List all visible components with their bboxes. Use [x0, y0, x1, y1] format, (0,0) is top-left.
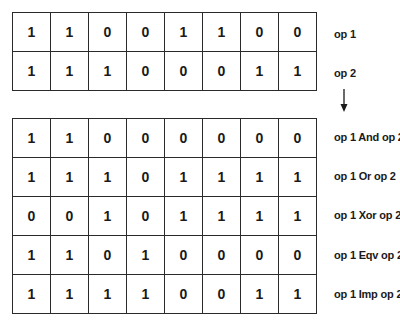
- bit-cell: 0: [203, 119, 241, 158]
- bit-cell: 1: [51, 119, 89, 158]
- bit-cell: 0: [241, 119, 279, 158]
- row-label-imp: op 1 Imp op 2: [334, 288, 400, 300]
- bit-cell: 0: [203, 52, 241, 91]
- bit-cell: 1: [165, 158, 203, 197]
- bit-cell: 1: [165, 13, 203, 52]
- bit-cell: 1: [51, 236, 89, 275]
- bit-cell: 0: [127, 13, 165, 52]
- bit-cell: 0: [279, 119, 317, 158]
- operand-row-op1: 1 1 0 0 1 1 0 0: [13, 13, 317, 52]
- bit-cell: 1: [51, 275, 89, 314]
- bit-cell: 1: [13, 13, 51, 52]
- bit-cell: 1: [241, 52, 279, 91]
- bit-cell: 1: [13, 158, 51, 197]
- operand-row-op2: 1 1 1 0 0 0 1 1: [13, 52, 317, 91]
- down-arrow-icon: [339, 89, 349, 113]
- bit-cell: 0: [241, 13, 279, 52]
- result-table: 1 1 0 0 0 0 0 0 1 1 1 0 1 1 1 1 0 0 1 0 …: [12, 118, 317, 314]
- bit-cell: 0: [127, 158, 165, 197]
- row-label-xor: op 1 Xor op 2: [334, 209, 400, 221]
- bit-cell: 1: [89, 275, 127, 314]
- bit-cell: 0: [89, 13, 127, 52]
- bit-cell: 1: [203, 158, 241, 197]
- bit-cell: 0: [127, 197, 165, 236]
- bit-cell: 1: [51, 52, 89, 91]
- bit-cell: 0: [165, 236, 203, 275]
- bit-cell: 0: [89, 119, 127, 158]
- row-label-or: op 1 Or op 2: [334, 170, 400, 182]
- bit-cell: 1: [165, 197, 203, 236]
- bit-cell: 0: [279, 13, 317, 52]
- row-label-eqv: op 1 Eqv op 2: [334, 249, 400, 261]
- bit-cell: 0: [203, 236, 241, 275]
- bit-cell: 1: [241, 158, 279, 197]
- bit-cell: 0: [127, 119, 165, 158]
- bit-cell: 0: [13, 197, 51, 236]
- result-row-and: 1 1 0 0 0 0 0 0: [13, 119, 317, 158]
- bit-cell: 0: [165, 275, 203, 314]
- bit-cell: 1: [13, 119, 51, 158]
- bit-cell: 1: [127, 236, 165, 275]
- bit-cell: 0: [165, 119, 203, 158]
- bit-cell: 0: [165, 52, 203, 91]
- bit-cell: 1: [13, 236, 51, 275]
- bit-cell: 1: [127, 275, 165, 314]
- bit-cell: 1: [279, 52, 317, 91]
- bit-cell: 0: [203, 275, 241, 314]
- row-label-op2: op 2: [334, 67, 400, 79]
- bit-cell: 1: [241, 197, 279, 236]
- bit-cell: 0: [279, 236, 317, 275]
- bit-cell: 0: [51, 197, 89, 236]
- result-row-or: 1 1 1 0 1 1 1 1: [13, 158, 317, 197]
- bit-cell: 1: [279, 197, 317, 236]
- row-label-and: op 1 And op 2: [334, 131, 400, 143]
- bit-cell: 0: [89, 236, 127, 275]
- bit-cell: 1: [279, 275, 317, 314]
- bit-cell: 1: [89, 158, 127, 197]
- bit-cell: 0: [241, 236, 279, 275]
- result-row-imp: 1 1 1 1 0 0 1 1: [13, 275, 317, 314]
- bit-cell: 1: [203, 13, 241, 52]
- bit-cell: 1: [279, 158, 317, 197]
- bit-cell: 0: [127, 52, 165, 91]
- bit-cell: 1: [203, 197, 241, 236]
- bit-cell: 1: [13, 275, 51, 314]
- bit-cell: 1: [241, 275, 279, 314]
- result-row-xor: 0 0 1 0 1 1 1 1: [13, 197, 317, 236]
- operand-table: 1 1 0 0 1 1 0 0 1 1 1 0 0 0 1 1: [12, 12, 317, 91]
- result-row-eqv: 1 1 0 1 0 0 0 0: [13, 236, 317, 275]
- bit-cell: 1: [89, 52, 127, 91]
- bit-cell: 1: [13, 52, 51, 91]
- bit-cell: 1: [89, 197, 127, 236]
- row-label-op1: op 1: [334, 28, 400, 40]
- bit-cell: 1: [51, 13, 89, 52]
- bit-cell: 1: [51, 158, 89, 197]
